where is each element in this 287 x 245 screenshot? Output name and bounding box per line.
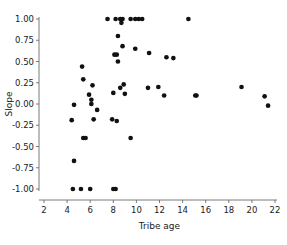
data-point — [266, 103, 271, 108]
data-point — [114, 119, 119, 124]
y-tick-label: -0.25 — [12, 120, 34, 130]
data-point — [121, 82, 126, 87]
data-point — [87, 92, 92, 97]
data-point — [186, 17, 191, 22]
data-point — [120, 44, 125, 49]
data-point — [83, 136, 88, 141]
x-tick-label: 18 — [223, 205, 234, 215]
x-tick-label: 6 — [87, 205, 92, 215]
data-point — [147, 51, 152, 56]
data-point — [133, 46, 138, 51]
data-point — [113, 17, 118, 22]
data-point — [113, 187, 118, 192]
x-tick-label: 10 — [131, 205, 142, 215]
data-point — [95, 108, 100, 113]
data-point — [71, 187, 76, 192]
data-point — [239, 85, 244, 90]
data-point — [80, 64, 85, 69]
y-tick-label: 0.50 — [15, 57, 34, 67]
data-point — [91, 117, 96, 122]
x-tick-label: 20 — [246, 205, 257, 215]
data-point — [146, 86, 151, 91]
y-tick-label: -0.50 — [12, 142, 34, 152]
data-point — [140, 17, 145, 22]
x-tick-label: 22 — [270, 205, 281, 215]
x-axis-title: Tribe age — [138, 221, 181, 231]
data-point — [156, 85, 161, 90]
data-point — [89, 102, 94, 107]
data-point — [128, 136, 133, 141]
y-tick-label: -0.75 — [12, 163, 34, 173]
data-point — [88, 187, 93, 192]
data-point — [89, 97, 94, 102]
x-tick-label: 4 — [64, 205, 69, 215]
data-point — [72, 103, 77, 108]
data-point — [119, 20, 124, 25]
plot-surface: -1.00-0.75-0.50-0.250.000.250.500.751.00… — [0, 0, 287, 245]
x-tick-label: 16 — [200, 205, 211, 215]
data-point — [72, 159, 77, 164]
y-tick-label: 0.00 — [15, 99, 34, 109]
data-point — [90, 83, 95, 88]
data-point — [114, 52, 119, 57]
data-point — [162, 93, 167, 98]
data-point — [164, 55, 169, 60]
y-tick-label: 1.00 — [15, 14, 34, 24]
data-point — [116, 34, 121, 39]
x-tick-label: 2 — [41, 205, 46, 215]
data-point-group — [69, 17, 270, 192]
data-point — [79, 187, 84, 192]
y-axis-title: Slope — [4, 91, 14, 116]
data-point — [81, 77, 86, 82]
y-tick-label: 0.25 — [15, 78, 34, 88]
data-point — [171, 56, 176, 61]
x-tick-label: 8 — [111, 205, 116, 215]
data-point — [118, 86, 123, 91]
data-point — [128, 17, 133, 22]
x-tick-label: 14 — [177, 205, 188, 215]
data-point — [116, 59, 121, 64]
data-point — [110, 117, 115, 122]
data-point — [111, 91, 116, 96]
data-point — [123, 91, 128, 96]
x-tick-label: 12 — [154, 205, 165, 215]
scatter-chart: -1.00-0.75-0.50-0.250.000.250.500.751.00… — [0, 0, 287, 245]
data-point — [194, 93, 199, 98]
data-point — [262, 94, 267, 99]
data-point — [69, 118, 74, 123]
data-point — [105, 17, 110, 22]
y-tick-label: 0.75 — [15, 35, 34, 45]
y-tick-label: -1.00 — [12, 184, 34, 194]
